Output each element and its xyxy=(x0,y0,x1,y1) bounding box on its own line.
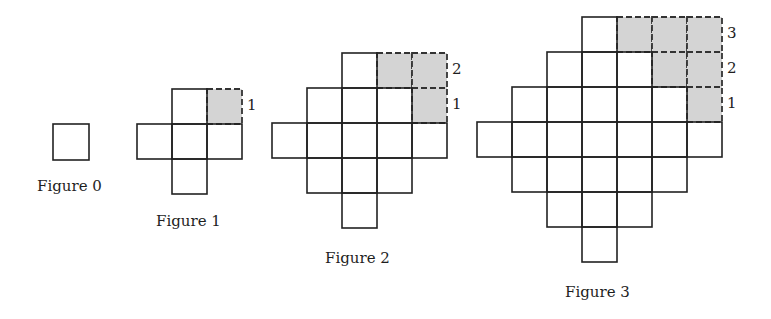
shaded-square xyxy=(687,52,722,87)
unit-square xyxy=(582,87,617,122)
unit-square xyxy=(512,157,547,192)
unit-square xyxy=(477,122,512,157)
unit-square xyxy=(342,158,377,193)
shaded-square xyxy=(687,17,722,52)
unit-square xyxy=(53,124,89,160)
figure-caption: Figure 1 xyxy=(156,214,221,229)
unit-square xyxy=(582,227,617,262)
unit-square xyxy=(307,123,342,158)
unit-square xyxy=(582,17,617,52)
unit-square xyxy=(377,158,412,193)
unit-square xyxy=(547,192,582,227)
shaded-square xyxy=(617,17,652,52)
unit-square xyxy=(172,159,207,194)
step-label: 2 xyxy=(452,62,462,77)
step-label: 1 xyxy=(452,97,462,112)
unit-square xyxy=(617,157,652,192)
unit-square xyxy=(582,122,617,157)
unit-square xyxy=(172,89,207,124)
unit-square xyxy=(342,193,377,228)
step-label: 2 xyxy=(727,61,737,76)
figure-caption: Figure 3 xyxy=(565,285,630,300)
unit-square xyxy=(582,157,617,192)
unit-square xyxy=(547,52,582,87)
step-label: 1 xyxy=(727,96,737,111)
unit-square xyxy=(342,123,377,158)
unit-square xyxy=(512,87,547,122)
unit-square xyxy=(582,52,617,87)
unit-square xyxy=(652,157,687,192)
figure-1 xyxy=(137,89,242,194)
figures-layer xyxy=(53,17,722,262)
unit-square xyxy=(137,124,172,159)
shaded-square xyxy=(652,52,687,87)
unit-square xyxy=(617,122,652,157)
unit-square xyxy=(652,87,687,122)
unit-square xyxy=(652,122,687,157)
step-label: 1 xyxy=(247,98,257,113)
figure-0 xyxy=(53,124,89,160)
unit-square xyxy=(342,88,377,123)
unit-square xyxy=(307,158,342,193)
unit-square xyxy=(582,192,617,227)
figure-3 xyxy=(477,17,722,262)
unit-square xyxy=(547,157,582,192)
figure-caption: Figure 2 xyxy=(325,251,390,266)
figure-caption: Figure 0 xyxy=(37,179,102,194)
unit-square xyxy=(272,123,307,158)
shaded-square xyxy=(377,53,412,88)
shaded-square xyxy=(412,88,447,123)
unit-square xyxy=(687,122,722,157)
step-label: 3 xyxy=(727,26,737,41)
unit-square xyxy=(617,87,652,122)
shaded-square xyxy=(652,17,687,52)
unit-square xyxy=(172,124,207,159)
unit-square xyxy=(512,122,547,157)
shaded-square xyxy=(207,89,242,124)
shaded-square xyxy=(687,87,722,122)
unit-square xyxy=(207,124,242,159)
unit-square xyxy=(307,88,342,123)
unit-square xyxy=(617,192,652,227)
unit-square xyxy=(342,53,377,88)
unit-square xyxy=(617,52,652,87)
figure-2 xyxy=(272,53,447,228)
unit-square xyxy=(412,123,447,158)
unit-square xyxy=(547,122,582,157)
unit-square xyxy=(547,87,582,122)
unit-square xyxy=(377,88,412,123)
unit-square xyxy=(377,123,412,158)
shaded-square xyxy=(412,53,447,88)
pattern-diagram xyxy=(0,0,771,319)
